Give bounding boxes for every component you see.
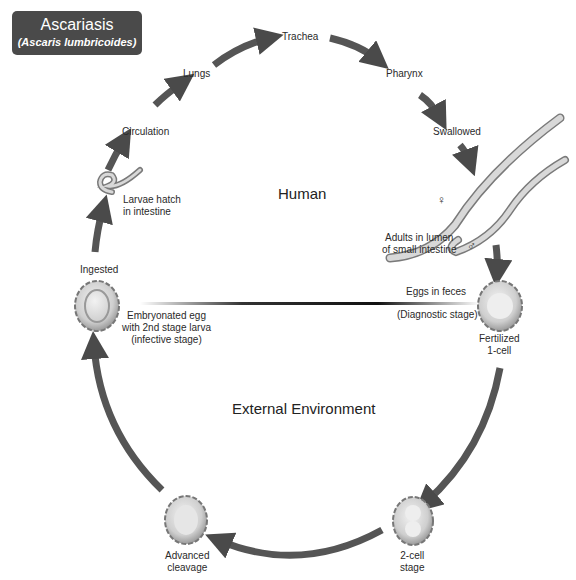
lifecycle-artwork [0,0,576,580]
label-swallowed: Swallowed [433,126,481,138]
arrow-circulation-lungs [155,82,183,105]
arrow-larvae-circulation [108,140,124,170]
arrow-ingested-larvae [95,208,103,252]
egg-2cell [393,497,433,545]
label-trachea: Trachea [282,31,318,43]
diagram-title: Ascariasis [12,15,142,35]
egg-advanced-cleavage [165,496,207,544]
male-symbol: ♂ [467,240,476,252]
label-2cell-stage: 2-cellstage [400,550,424,574]
arrow-trachea-pharynx [330,38,378,60]
diagram-subtitle: (Ascaris lumbricoides) [12,35,142,49]
label-ingested: Ingested [80,264,118,276]
zone-external: External Environment [232,400,375,417]
human-environment-divider [140,302,480,305]
arrow-fertilized-2cell [425,368,500,503]
label-adults: Adults in lumenof small intestine [382,232,456,256]
label-fertilized: Fertilized1-cell [479,333,520,357]
label-advanced-cleavage: Advancedcleavage [165,550,209,574]
label-larvae-hatch: Larvae hatchin intestine [123,194,181,218]
arrow-advanced-embryonated [94,345,162,490]
female-symbol: ♀ [437,194,446,206]
arrow-lungs-trachea [214,38,270,65]
label-diagnostic-stage: (Diagnostic stage) [397,309,478,321]
title-box: Ascariasis (Ascaris lumbricoides) [12,11,142,55]
label-lungs: Lungs [183,68,210,80]
larva-icon [100,170,140,192]
zone-human: Human [278,185,326,202]
arrow-adults-eggs [496,245,497,273]
label-embryonated-egg: Embryonated eggwith 2nd stage larva(infe… [122,310,211,346]
label-eggs-feces: Eggs in feces [406,286,466,298]
label-circulation: Circulation [122,126,169,138]
arrow-pharynx-swallowed [420,95,440,118]
arrow-swallowed-adults [460,145,470,163]
arrow-2cell-advanced [218,530,382,555]
label-pharynx: Pharynx [386,68,423,80]
egg-embryonated [75,281,119,331]
egg-fertilized [478,281,522,331]
